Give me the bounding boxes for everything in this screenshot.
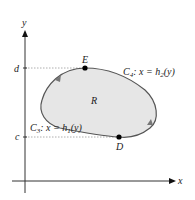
c-label: c bbox=[15, 131, 20, 142]
c4-label: C4: x = h2(y) bbox=[123, 66, 175, 79]
E-label: E bbox=[81, 54, 88, 65]
R-label: R bbox=[90, 95, 97, 106]
point-D bbox=[116, 134, 121, 139]
x-axis-arrow-icon bbox=[169, 178, 176, 184]
d-label: d bbox=[14, 63, 20, 74]
x-axis-label: x bbox=[177, 175, 183, 186]
y-axis-label: y bbox=[21, 17, 27, 28]
point-E bbox=[82, 65, 87, 70]
y-axis-arrow-icon bbox=[22, 30, 28, 37]
c3-label: C3: x = h1(y) bbox=[30, 122, 82, 135]
region-diagram: y x d c E D R C4: x = h2(y) C3: x = h1(y… bbox=[0, 0, 195, 200]
D-label: D bbox=[115, 141, 124, 152]
